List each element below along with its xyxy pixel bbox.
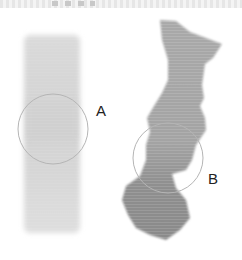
specimen-b — [122, 20, 222, 240]
callout-label-a: A — [96, 102, 106, 119]
callout-label-b: B — [208, 170, 218, 187]
figure-canvas — [0, 0, 242, 260]
specimen-a — [24, 35, 80, 233]
